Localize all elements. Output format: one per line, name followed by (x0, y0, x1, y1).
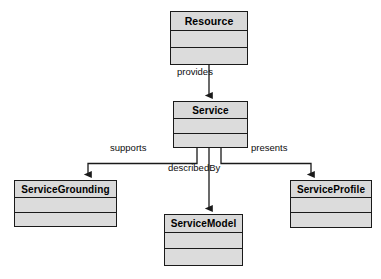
class-box-service[interactable]: Service (173, 101, 248, 148)
class-name-service-grounding: ServiceGrounding (15, 181, 116, 198)
class-operations-service-grounding (15, 213, 116, 226)
class-operations-service (174, 134, 247, 147)
class-box-service-profile[interactable]: ServiceProfile (290, 180, 372, 228)
class-attributes-resource (171, 31, 247, 48)
class-box-resource[interactable]: Resource (170, 11, 248, 65)
class-attributes-service-model (165, 233, 242, 249)
class-name-service: Service (174, 102, 247, 119)
class-operations-service-profile (291, 213, 371, 227)
class-attributes-service (174, 119, 247, 134)
class-box-service-grounding[interactable]: ServiceGrounding (14, 180, 117, 227)
uml-class-diagram: Resource Service ServiceGrounding Servic… (0, 0, 381, 279)
edge-label-provides: provides (177, 66, 213, 77)
class-attributes-service-profile (291, 198, 371, 213)
edge-label-supports: supports (110, 142, 146, 153)
class-attributes-service-grounding (15, 198, 116, 213)
class-operations-service-model (165, 249, 242, 265)
edge-label-presents: presents (251, 142, 287, 153)
class-operations-resource (171, 48, 247, 64)
edge-label-describedby: describedBy (168, 162, 220, 173)
class-name-resource: Resource (171, 12, 247, 31)
class-box-service-model[interactable]: ServiceModel (164, 214, 243, 266)
class-name-service-profile: ServiceProfile (291, 181, 371, 198)
class-name-service-model: ServiceModel (165, 215, 242, 233)
